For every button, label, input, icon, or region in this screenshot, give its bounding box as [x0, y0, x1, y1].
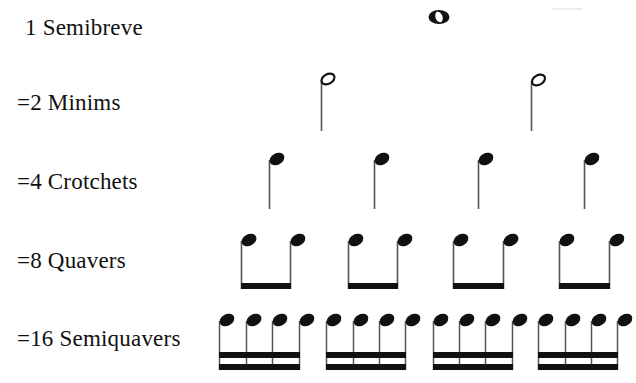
semibreve-icon — [429, 10, 450, 24]
quaver-pair-icon — [451, 231, 520, 289]
quaver-pair-icon — [346, 231, 414, 289]
semiquaver-group-icon — [431, 311, 529, 370]
minim-icon — [320, 71, 337, 131]
quaver-pair-icon — [557, 231, 626, 289]
notation-canvas — [0, 0, 636, 383]
semiquaver-group-icon — [324, 311, 422, 370]
quaver-pair-icon — [239, 231, 307, 289]
minim-icon — [530, 72, 547, 131]
semiquaver-group-icon — [536, 311, 634, 370]
crotchet-icon — [476, 150, 495, 209]
crotchet-icon — [582, 150, 601, 209]
semiquaver-group-icon — [217, 311, 316, 370]
crotchet-icon — [267, 150, 286, 209]
crotchet-icon — [372, 150, 391, 209]
